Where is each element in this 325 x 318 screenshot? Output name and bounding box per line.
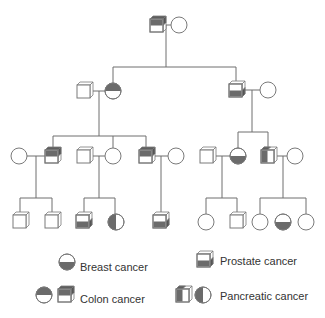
female-unaffected [105,148,121,164]
male-colon-cancer [139,147,155,163]
female-unaffected [287,148,303,164]
male-unaffected [13,212,29,228]
legend-pancreatic-male-symbol [176,286,192,302]
pedigree-diagram: Breast cancer Prostate cancer Colon canc… [0,0,325,318]
male-pancreatic-cancer [261,147,277,163]
generation-2 [77,81,276,136]
legend: Breast cancer Prostate cancer Colon canc… [36,251,308,305]
legend-breast-label: Breast cancer [80,261,148,273]
female-unaffected [252,214,268,230]
legend-breast-symbol [59,254,75,270]
male-prostate-cancer [229,81,245,97]
male-prostate-cancer [153,212,169,228]
female-unaffected [198,214,214,230]
female-unaffected [11,148,27,164]
male-prostate-cancer [76,212,92,228]
female-unaffected [260,82,276,98]
female-breast-cancer [230,148,246,164]
legend-prostate-symbol [197,251,213,267]
male-colon-cancer [45,147,61,163]
legend-pancreatic-female-symbol [195,287,211,303]
female-pancreatic-cancer [108,214,124,230]
male-unaffected [45,212,61,228]
male-unaffected [77,147,93,163]
legend-colon-label: Colon cancer [80,293,145,305]
male-unaffected [230,212,246,228]
female-unaffected [168,148,184,164]
legend-pancreatic-label: Pancreatic cancer [220,290,308,302]
generation-3 [11,147,303,213]
male-unaffected [200,147,216,163]
generation-1 [150,16,187,67]
male-colon-cancer [150,16,166,32]
legend-colon-male-symbol [58,286,74,302]
female-breast-cancer [105,83,121,99]
legend-colon-female-symbol [36,287,52,303]
female-unaffected [171,17,187,33]
legend-prostate-label: Prostate cancer [220,255,297,267]
male-unaffected [77,82,93,98]
female-breast-cancer [275,214,291,230]
generation-4 [13,212,314,230]
female-unaffected [298,214,314,230]
